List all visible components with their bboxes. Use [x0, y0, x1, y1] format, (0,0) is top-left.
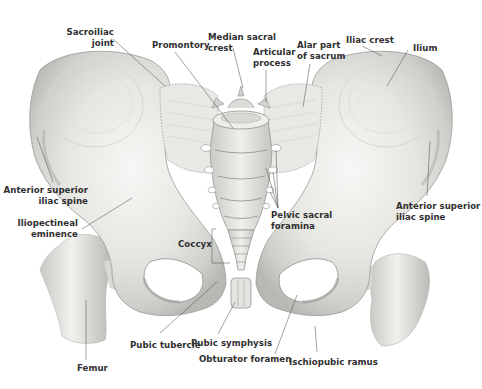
- label-anterior-superior-iliac-spine-left: Anterior superior iliac spine: [4, 185, 88, 206]
- label-iliopectineal-eminence: Iliopectineal eminence: [18, 218, 78, 239]
- leader-line-pubic-symphysis: [218, 302, 235, 334]
- label-alar-part-of-sacrum: Alar part of sacrum: [297, 40, 345, 61]
- label-iliac-crest: Iliac crest: [346, 35, 394, 46]
- label-articular-process: Articular process: [253, 47, 296, 68]
- sacrum: [201, 86, 281, 230]
- label-ischiopubic-ramus: Ischiopubic ramus: [289, 357, 378, 368]
- pelvis-anatomy-diagram: Sacroiliac joint Promontory Median sacra…: [0, 0, 482, 389]
- label-ilium: Ilium: [413, 43, 437, 54]
- label-femur: Femur: [77, 363, 108, 374]
- leader-line-median-sacral-crest: [233, 48, 243, 88]
- label-coccyx: Coccyx: [178, 239, 212, 250]
- label-pubic-symphysis: Pubic symphysis: [191, 338, 272, 349]
- label-obturator-foramen: Obturator foramen: [199, 354, 291, 365]
- label-promontory: Promontory: [152, 40, 210, 51]
- label-anterior-superior-iliac-spine-right: Anterior superior iliac spine: [396, 201, 480, 222]
- leader-line-ischiopubic-ramus: [315, 326, 317, 352]
- label-sacroiliac-joint: Sacroiliac joint: [67, 27, 114, 48]
- label-pelvic-sacral-foramina: Pelvic sacral foramina: [271, 210, 332, 231]
- coccyx-shape: [228, 230, 254, 270]
